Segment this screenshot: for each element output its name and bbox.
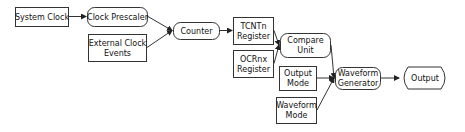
node-output-mode: OutputMode bbox=[280, 67, 317, 91]
node-label: Waveform bbox=[338, 69, 379, 78]
edge-clock-prescaler-to-counter bbox=[148, 17, 172, 31]
node-label: Register bbox=[237, 65, 271, 74]
node-external-clock-events: External ClockEvents bbox=[89, 35, 147, 62]
node-tcntn-register: TCNTnRegister bbox=[234, 18, 274, 45]
node-label: OCRnx bbox=[240, 55, 268, 64]
node-waveform-mode: WaveformMode bbox=[276, 98, 317, 124]
node-label: Register bbox=[237, 32, 271, 41]
edge-waveform-mode-to-waveform-generator bbox=[317, 78, 334, 110]
timer-block-diagram: System ClockClock PrescalerExternal Cloc… bbox=[0, 0, 465, 132]
node-label: Unit bbox=[297, 46, 313, 55]
edge-tcntn-register-to-compare-unit bbox=[274, 31, 279, 46]
node-label: Mode bbox=[287, 79, 309, 88]
node-label: TCNTn bbox=[240, 22, 267, 31]
edge-ocrnx-register-to-compare-unit bbox=[274, 45, 279, 64]
node-label: Counter bbox=[181, 27, 214, 36]
node-label: Clock Prescaler bbox=[87, 13, 149, 22]
node-system-clock: System Clock bbox=[15, 8, 69, 27]
edge-external-clock-events-to-counter bbox=[147, 31, 172, 48]
node-label: Mode bbox=[286, 111, 308, 120]
node-label: Output bbox=[411, 74, 439, 83]
node-clock-prescaler: Clock Prescaler bbox=[87, 8, 149, 27]
node-label: System Clock bbox=[15, 13, 69, 22]
node-output: Output bbox=[404, 67, 445, 89]
node-compare-unit: CompareUnit bbox=[281, 34, 331, 58]
node-label: Generator bbox=[338, 79, 379, 88]
node-label: Compare bbox=[287, 36, 323, 45]
edge-compare-unit-to-waveform-generator bbox=[331, 45, 334, 78]
nodes-layer: System ClockClock PrescalerExternal Cloc… bbox=[15, 8, 445, 124]
node-label: External Clock bbox=[89, 39, 147, 48]
node-label: Events bbox=[104, 49, 131, 58]
node-label: Waveform bbox=[276, 101, 317, 110]
node-ocrnx-register: OCRnxRegister bbox=[234, 51, 274, 78]
node-counter: Counter bbox=[174, 23, 220, 40]
node-waveform-generator: WaveformGenerator bbox=[336, 68, 381, 90]
node-label: Output bbox=[284, 69, 312, 78]
